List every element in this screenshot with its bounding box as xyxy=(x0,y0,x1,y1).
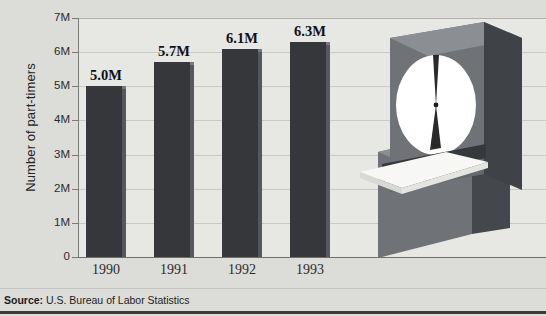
bar-value-label: 5.0M xyxy=(71,68,141,82)
y-axis-tick-label: 1M xyxy=(44,217,70,227)
bar-top-edge xyxy=(122,86,126,89)
bar-highlight-edge xyxy=(258,49,262,257)
time-clock-illustration xyxy=(360,22,536,258)
bar xyxy=(222,49,262,257)
bar-highlight-edge xyxy=(122,86,126,257)
y-axis-tick-label: 7M xyxy=(44,12,70,22)
bar xyxy=(290,42,330,257)
x-axis-tick-label: 1992 xyxy=(207,262,277,278)
x-axis-tick-label: 1991 xyxy=(139,262,209,278)
y-axis-tick-label: 0 xyxy=(44,251,70,261)
x-axis-tick-label: 1990 xyxy=(71,262,141,278)
y-axis-tick-label: 3M xyxy=(44,149,70,159)
y-axis-tick-label: 6M xyxy=(44,46,70,56)
bar xyxy=(154,62,194,257)
source-text: U.S. Bureau of Labor Statistics xyxy=(46,294,190,306)
bar-face xyxy=(290,42,330,257)
y-axis-tick-label: 5M xyxy=(44,80,70,90)
bar-highlight-edge xyxy=(190,62,194,257)
bar-value-label: 5.7M xyxy=(139,44,209,58)
source-label: Source: xyxy=(4,294,43,306)
footer-separator xyxy=(0,288,546,289)
bar-top-edge xyxy=(190,62,194,65)
bar-value-label: 6.3M xyxy=(275,24,345,38)
x-axis-tick-label: 1993 xyxy=(275,262,345,278)
source-note: Source: U.S. Bureau of Labor Statistics xyxy=(4,294,190,306)
y-axis-title: Number of part-timers xyxy=(23,28,38,228)
bar-face xyxy=(86,86,126,257)
y-axis-tick-label: 2M xyxy=(44,183,70,193)
bar-highlight-edge xyxy=(326,42,330,257)
bar-top-edge xyxy=(258,49,262,52)
bar-face xyxy=(154,62,194,257)
bar-value-label: 6.1M xyxy=(207,31,277,45)
y-axis-tick-label: 4M xyxy=(44,114,70,124)
bottom-rule xyxy=(0,311,546,314)
bar-top-edge xyxy=(326,42,330,45)
figure: 01M2M3M4M5M6M7M Number of part-timers 5.… xyxy=(0,0,546,316)
bar-face xyxy=(222,49,262,257)
bar xyxy=(86,86,126,257)
